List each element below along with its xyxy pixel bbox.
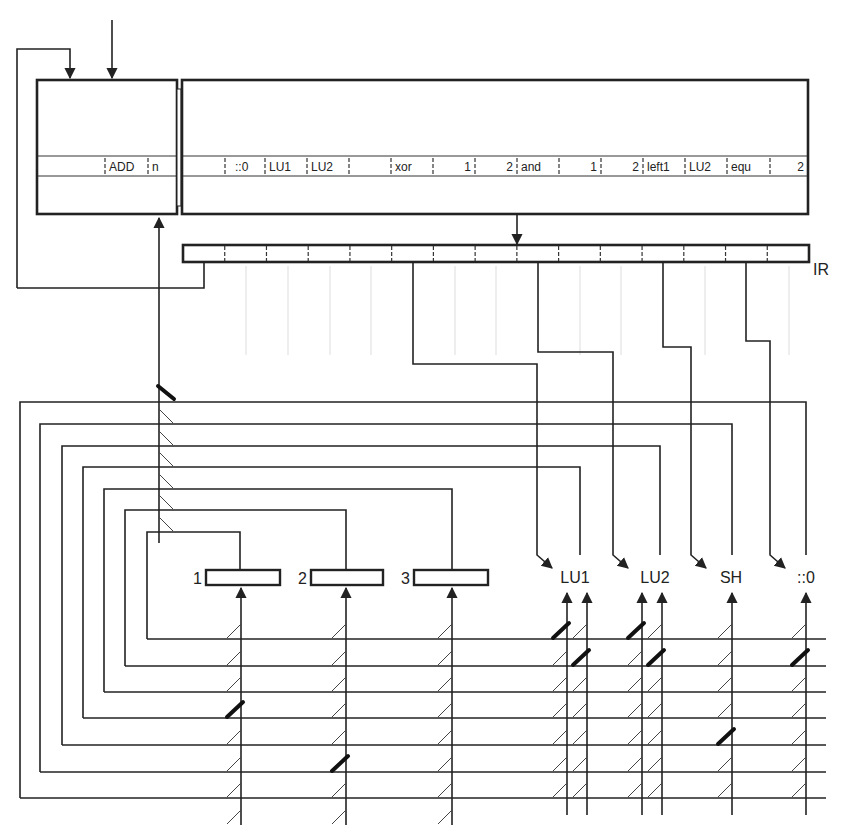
register-label: 2 xyxy=(298,570,307,587)
microprogram-control-diagram: ADDn ::0LU1LU2xor12and12left1LU2equ2 IR … xyxy=(0,0,842,833)
buses xyxy=(20,402,826,798)
ir-label: IR xyxy=(813,261,829,278)
right-memory-cell: LU2 xyxy=(689,160,711,174)
left-memory-cell: n xyxy=(152,160,159,174)
switch-matrix xyxy=(158,386,808,824)
right-memory-cell: and xyxy=(521,160,541,174)
right-memory-cell: xor xyxy=(395,160,412,174)
ir-control-lines xyxy=(413,262,785,568)
ir-register: IR xyxy=(183,245,829,278)
right-memory-cell: 2 xyxy=(797,160,804,174)
right-memory-cell: equ xyxy=(731,160,751,174)
function-unit-label: ::0 xyxy=(797,569,815,586)
function-unit-label: LU2 xyxy=(640,569,669,586)
right-memory-block: ::0LU1LU2xor12and12left1LU2equ2 xyxy=(182,80,808,214)
right-memory-cell: 2 xyxy=(506,160,513,174)
right-memory-cell: 2 xyxy=(632,160,639,174)
left-memory-cell: ADD xyxy=(109,160,135,174)
right-memory-cell: LU2 xyxy=(311,160,333,174)
register-label: 3 xyxy=(401,570,410,587)
right-memory-cell: 1 xyxy=(590,160,597,174)
register-label: 1 xyxy=(193,570,202,587)
right-memory-cell: 1 xyxy=(464,160,471,174)
function-unit-label: LU1 xyxy=(560,569,589,586)
register-2: 2 xyxy=(298,570,383,825)
right-memory-cell: left1 xyxy=(647,160,670,174)
faint-ir-outputs xyxy=(246,266,789,355)
right-memory-cell: LU1 xyxy=(269,160,291,174)
register-3: 3 xyxy=(401,570,488,825)
right-memory-cell: ::0 xyxy=(235,160,249,174)
left-memory-block: ADDn xyxy=(37,80,177,214)
function-unit-label: SH xyxy=(720,569,742,586)
